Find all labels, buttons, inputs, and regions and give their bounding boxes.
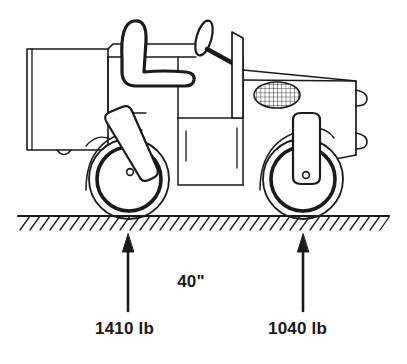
bumper-hook-upper <box>356 90 367 106</box>
left-force-arrow <box>123 234 134 311</box>
grille-headlight <box>254 82 300 108</box>
vehicle-load-diagram: 1410 lb 1040 lb 40" <box>0 0 407 364</box>
wheelbase-dimension-label: 40" <box>177 272 205 292</box>
right-load-label: 1040 lb <box>268 319 327 339</box>
steering-assembly <box>192 19 238 66</box>
left-load-label: 1410 lb <box>95 319 154 339</box>
rear-hub-pin <box>127 169 134 176</box>
diagram-canvas <box>0 0 407 364</box>
windshield-frame <box>232 32 243 118</box>
ground-hatch-marks <box>20 216 389 230</box>
front-hub-pin <box>303 172 310 179</box>
bumper-hook-lower <box>356 133 367 149</box>
driver-seat <box>122 21 194 86</box>
hatched-ground-line <box>18 216 389 230</box>
right-force-arrow <box>298 234 309 311</box>
front-bumper-hooks <box>356 90 367 149</box>
front-wheel-strut <box>293 113 320 184</box>
